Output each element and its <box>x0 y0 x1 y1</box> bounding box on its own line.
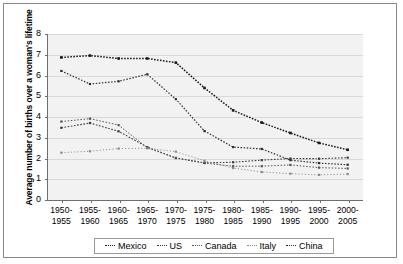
legend-label: US <box>170 242 183 251</box>
data-point <box>89 122 91 124</box>
legend-swatch-icon <box>286 245 296 247</box>
data-point <box>318 167 320 169</box>
data-point <box>232 146 234 148</box>
data-point <box>89 54 92 57</box>
data-point <box>117 57 120 60</box>
data-point <box>261 159 263 161</box>
data-point <box>60 56 63 59</box>
data-point <box>260 121 263 124</box>
data-point <box>89 118 91 120</box>
x-tick-mark <box>291 200 292 203</box>
data-point <box>60 70 62 72</box>
data-point <box>89 150 91 152</box>
data-point <box>203 87 206 90</box>
x-tick-label: 2000-2005 <box>326 205 370 227</box>
legend-item-us[interactable]: US <box>157 242 183 251</box>
data-point <box>146 73 148 75</box>
legend-swatch-icon <box>105 245 115 247</box>
x-tick-label-top: 2000- <box>326 205 370 216</box>
legend-label: Italy <box>260 242 277 251</box>
data-point <box>203 160 205 162</box>
data-point <box>203 162 205 164</box>
x-tick-mark <box>62 200 63 203</box>
data-point <box>318 174 320 176</box>
series-line <box>61 56 347 150</box>
data-point <box>347 157 349 159</box>
data-point <box>261 171 263 173</box>
series-mexico <box>60 54 349 151</box>
x-tick-mark <box>177 200 178 203</box>
x-tick-mark <box>91 200 92 203</box>
data-point <box>318 142 321 145</box>
legend-label: China <box>299 242 323 251</box>
data-point <box>175 151 177 153</box>
y-tick-mark <box>45 200 48 201</box>
data-point <box>117 80 119 82</box>
data-point <box>318 158 320 160</box>
data-point <box>289 159 291 161</box>
y-tick-label: 5 <box>21 91 41 100</box>
x-tick-mark <box>148 200 149 203</box>
data-point <box>175 157 177 159</box>
x-tick-mark <box>234 200 235 203</box>
data-point <box>175 98 177 100</box>
series-us <box>60 122 349 164</box>
legend-item-mexico[interactable]: Mexico <box>105 242 147 251</box>
data-point <box>289 173 291 175</box>
data-point <box>60 127 62 129</box>
data-point <box>60 152 62 154</box>
data-point <box>347 164 349 166</box>
legend-label: Mexico <box>118 242 147 251</box>
chart-legend: MexicoUSCanadaItalyChina <box>94 238 334 254</box>
legend-label: Canada <box>205 242 237 251</box>
data-point <box>232 109 235 112</box>
data-point <box>347 173 349 175</box>
x-tick-mark <box>349 200 350 203</box>
y-tick-label: 7 <box>21 50 41 59</box>
data-point <box>232 161 234 163</box>
x-tick-mark <box>263 200 264 203</box>
series-china <box>60 70 349 166</box>
data-point <box>346 148 349 151</box>
x-tick-mark <box>320 200 321 203</box>
legend-swatch-icon <box>192 245 202 247</box>
data-point <box>347 167 349 169</box>
x-tick-mark <box>206 200 207 203</box>
data-point <box>146 147 148 149</box>
data-point <box>175 61 178 64</box>
chart-container: Average number of births over a woman's … <box>0 0 403 264</box>
data-point <box>89 83 91 85</box>
legend-item-canada[interactable]: Canada <box>192 242 237 251</box>
y-tick-label: 3 <box>21 133 41 142</box>
data-point <box>117 130 119 132</box>
y-tick-label: 8 <box>21 29 41 38</box>
legend-item-italy[interactable]: Italy <box>247 242 277 251</box>
data-point <box>117 147 119 149</box>
data-point <box>261 165 263 167</box>
data-point <box>60 120 62 122</box>
data-point <box>203 130 205 132</box>
y-tick-label: 0 <box>21 195 41 204</box>
x-tick-label-bottom: 2005 <box>326 216 370 227</box>
data-point <box>261 148 263 150</box>
data-point <box>146 57 149 60</box>
data-point <box>289 164 291 166</box>
x-tick-mark <box>120 200 121 203</box>
y-tick-label: 4 <box>21 112 41 121</box>
data-point <box>318 162 320 164</box>
series-line <box>61 71 347 165</box>
series-italy <box>60 147 349 176</box>
data-point <box>117 124 119 126</box>
chart-plot-svg <box>47 34 362 200</box>
legend-swatch-icon <box>157 245 167 247</box>
series-line <box>61 123 347 163</box>
legend-item-china[interactable]: China <box>286 242 323 251</box>
y-tick-label: 2 <box>21 154 41 163</box>
y-tick-label: 6 <box>21 71 41 80</box>
legend-swatch-icon <box>247 245 257 247</box>
y-tick-label: 1 <box>21 174 41 183</box>
data-point <box>232 167 234 169</box>
data-point <box>289 132 292 135</box>
